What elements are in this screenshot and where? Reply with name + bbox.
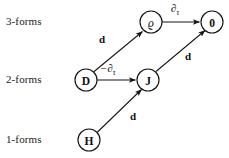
node-J-label: J bbox=[145, 75, 151, 87]
node-rho-label: ϱ bbox=[148, 17, 154, 30]
edge-label-d-left: d bbox=[99, 33, 105, 45]
node-D-label: D bbox=[82, 75, 90, 87]
edge-label-minus-partial-tau-mid: −∂τ bbox=[100, 62, 116, 77]
minus-partial-symbol-mid: −∂ bbox=[100, 62, 113, 74]
edge-J-to-zero bbox=[156, 31, 205, 72]
diagram-canvas: ϱ 0 D J H bbox=[0, 0, 229, 158]
edge-label-d-right: d bbox=[185, 50, 191, 62]
node-H-label: H bbox=[85, 135, 94, 147]
tau-subscript-mid: τ bbox=[113, 68, 116, 77]
tau-subscript-top: τ bbox=[176, 8, 179, 17]
edge-label-partial-tau-top: ∂τ bbox=[171, 2, 179, 17]
node-J: J bbox=[137, 69, 159, 91]
node-D: D bbox=[75, 69, 97, 91]
node-zero-label: 0 bbox=[209, 17, 215, 29]
edge-label-d-bottom: d bbox=[130, 110, 136, 122]
node-zero: 0 bbox=[201, 11, 223, 33]
node-H: H bbox=[78, 129, 100, 151]
node-rho: ϱ bbox=[140, 11, 162, 33]
commutative-diagram: 3-forms 2-forms 1-forms ϱ 0 D J bbox=[0, 0, 229, 158]
